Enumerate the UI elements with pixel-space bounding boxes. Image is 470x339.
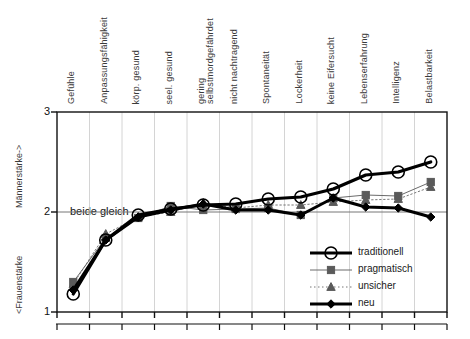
legend-label-traditionell: traditionell xyxy=(358,246,404,257)
legend-markers xyxy=(310,247,352,308)
legend-label-unsicher: unsicher xyxy=(358,280,396,291)
chart-figure: GefühleAnpassungsfähigkeitkörp. gesundse… xyxy=(0,0,470,339)
plot-area xyxy=(0,0,470,339)
legend-label-neu: neu xyxy=(358,297,375,308)
legend-label-pragmatisch: pragmatisch xyxy=(358,263,412,274)
axis-frame xyxy=(51,112,447,330)
